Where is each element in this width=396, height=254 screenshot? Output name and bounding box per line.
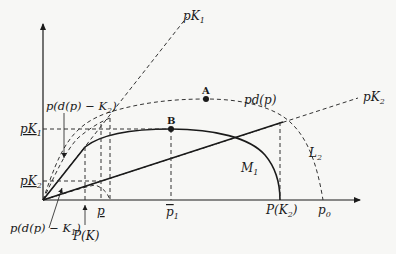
point-B-marker xyxy=(168,126,174,132)
point-B-label: B xyxy=(167,115,175,126)
M1-label: M1 xyxy=(240,161,258,177)
y-pK2-label: pK2 xyxy=(20,174,42,190)
x-p1-label: p1 xyxy=(166,205,179,221)
point-A-marker xyxy=(203,96,209,102)
pK2-ray-label: pK2 xyxy=(363,90,385,106)
y-pK1-label: pK1 xyxy=(20,122,42,138)
x-PK-label: P(K) xyxy=(72,229,100,243)
x-PK2-label: P(K2) xyxy=(265,203,298,219)
x-p-under-label: p xyxy=(97,204,105,218)
pd-label: pd(p) xyxy=(244,93,277,107)
pK1-ray-label: pK1 xyxy=(183,9,205,25)
point-A-label: A xyxy=(201,85,210,96)
ann-top-label: p(d(p) − K2) xyxy=(46,99,117,115)
x-p0-label: p0 xyxy=(318,203,331,219)
ann-bottom-label: p(d(p) − K1) xyxy=(10,221,81,237)
economics-diagram: pK1 pK2 pd(p) A B M1 L2 pK1 pK2 p(d(p) −… xyxy=(0,0,396,254)
L2-label: L2 xyxy=(308,146,322,162)
